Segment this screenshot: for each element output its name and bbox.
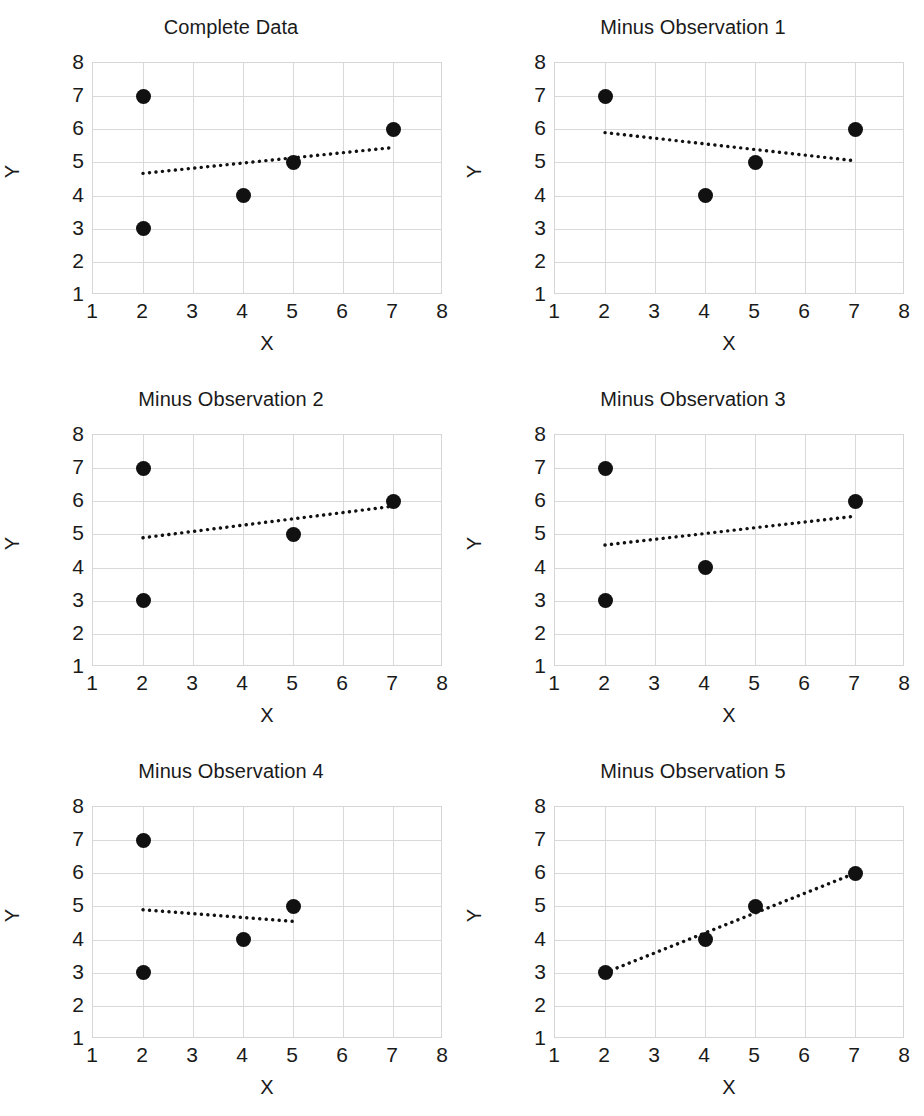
x-axis-tick-label: 8 xyxy=(884,1044,924,1065)
chart-title: Minus Observation 5 xyxy=(462,760,924,783)
chart-title: Minus Observation 2 xyxy=(0,388,462,411)
data-point xyxy=(286,899,301,914)
x-axis-tick-label: 4 xyxy=(684,300,724,321)
x-axis-tick-label: 3 xyxy=(634,672,674,693)
x-axis-tick-label: 6 xyxy=(322,1044,362,1065)
x-axis-tick-label: 2 xyxy=(122,300,162,321)
chart-panel-6: Minus Observation 58765432112345678XY xyxy=(462,744,924,1116)
x-axis-tick-label: 4 xyxy=(222,300,262,321)
y-axis-tick-label: 6 xyxy=(506,489,546,510)
x-axis-tick-label: 1 xyxy=(534,300,574,321)
y-axis-tick-label: 2 xyxy=(44,250,84,271)
figure-panel-grid: Complete Data8765432112345678XYMinus Obs… xyxy=(0,0,924,1116)
x-axis-tick-label: 7 xyxy=(834,672,874,693)
y-axis-tick-label: 8 xyxy=(506,51,546,72)
data-point xyxy=(286,527,301,542)
x-axis-tick-label: 5 xyxy=(272,672,312,693)
x-axis-tick-label: 7 xyxy=(372,300,412,321)
x-axis-tick-label: 2 xyxy=(584,1044,624,1065)
y-axis-tick-label: 8 xyxy=(44,423,84,444)
plot-area xyxy=(554,62,904,294)
y-axis-tick-label: 2 xyxy=(44,994,84,1015)
y-axis-label: Y xyxy=(1,537,24,550)
y-axis-tick-label: 7 xyxy=(44,456,84,477)
data-point xyxy=(286,155,301,170)
y-axis-tick-label: 3 xyxy=(44,217,84,238)
data-point xyxy=(236,188,251,203)
y-axis-tick-label: 7 xyxy=(44,84,84,105)
x-axis-tick-label: 5 xyxy=(272,1044,312,1065)
x-axis-tick-label: 7 xyxy=(372,672,412,693)
y-axis-tick-label: 6 xyxy=(44,861,84,882)
x-axis-tick-label: 8 xyxy=(884,672,924,693)
x-axis-tick-label: 5 xyxy=(734,672,774,693)
trendline xyxy=(555,807,905,1039)
y-axis-tick-label: 2 xyxy=(506,622,546,643)
x-axis-tick-label: 6 xyxy=(784,300,824,321)
chart-panel-1: Complete Data8765432112345678XY xyxy=(0,0,462,372)
data-point xyxy=(698,560,713,575)
x-axis-tick-label: 1 xyxy=(72,1044,112,1065)
y-axis-tick-label: 6 xyxy=(506,117,546,138)
x-axis-tick-label: 5 xyxy=(734,300,774,321)
y-axis-tick-label: 8 xyxy=(44,51,84,72)
y-axis-tick-label: 4 xyxy=(44,928,84,949)
y-axis-tick-label: 5 xyxy=(506,150,546,171)
x-axis-tick-label: 8 xyxy=(422,672,462,693)
data-point xyxy=(136,965,151,980)
x-axis-tick-label: 5 xyxy=(734,1044,774,1065)
y-axis-label: Y xyxy=(1,165,24,178)
y-axis-label: Y xyxy=(1,909,24,922)
plot-area xyxy=(92,806,442,1038)
data-point xyxy=(598,89,613,104)
y-axis-tick-label: 3 xyxy=(506,589,546,610)
y-axis-tick-label: 5 xyxy=(44,150,84,171)
y-axis-tick-label: 3 xyxy=(44,589,84,610)
x-axis-label: X xyxy=(554,1076,904,1099)
y-axis-tick-label: 4 xyxy=(506,928,546,949)
y-axis-tick-label: 2 xyxy=(506,994,546,1015)
y-axis-tick-label: 3 xyxy=(506,217,546,238)
y-axis-tick-label: 7 xyxy=(506,84,546,105)
y-axis-tick-label: 2 xyxy=(44,622,84,643)
y-axis-tick-label: 6 xyxy=(506,861,546,882)
x-axis-tick-label: 3 xyxy=(634,300,674,321)
x-axis-tick-label: 4 xyxy=(684,1044,724,1065)
data-point xyxy=(598,593,613,608)
data-point xyxy=(848,122,863,137)
y-axis-tick-label: 5 xyxy=(506,894,546,915)
x-axis-tick-label: 7 xyxy=(834,300,874,321)
data-point xyxy=(386,122,401,137)
x-axis-tick-label: 6 xyxy=(784,1044,824,1065)
y-axis-tick-label: 3 xyxy=(506,961,546,982)
x-axis-tick-label: 2 xyxy=(584,300,624,321)
x-axis-tick-label: 7 xyxy=(834,1044,874,1065)
x-axis-tick-label: 8 xyxy=(422,300,462,321)
y-axis-tick-label: 4 xyxy=(506,556,546,577)
data-point xyxy=(136,89,151,104)
y-axis-tick-label: 2 xyxy=(506,250,546,271)
y-axis-tick-label: 4 xyxy=(506,184,546,205)
chart-panel-5: Minus Observation 48765432112345678XY xyxy=(0,744,462,1116)
data-point xyxy=(598,965,613,980)
y-axis-tick-label: 6 xyxy=(44,117,84,138)
plot-area xyxy=(92,434,442,666)
x-axis-tick-label: 4 xyxy=(222,1044,262,1065)
plot-area xyxy=(554,806,904,1038)
x-axis-tick-label: 2 xyxy=(122,1044,162,1065)
x-axis-tick-label: 1 xyxy=(72,672,112,693)
data-point xyxy=(848,494,863,509)
y-axis-tick-label: 7 xyxy=(44,828,84,849)
data-point xyxy=(598,461,613,476)
x-axis-tick-label: 4 xyxy=(222,672,262,693)
x-axis-tick-label: 8 xyxy=(884,300,924,321)
y-axis-tick-label: 5 xyxy=(506,522,546,543)
y-axis-tick-label: 3 xyxy=(44,961,84,982)
data-point xyxy=(136,593,151,608)
y-axis-label: Y xyxy=(463,537,486,550)
x-axis-tick-label: 8 xyxy=(422,1044,462,1065)
x-axis-tick-label: 6 xyxy=(784,672,824,693)
data-point xyxy=(136,461,151,476)
y-axis-tick-label: 7 xyxy=(506,456,546,477)
y-axis-label: Y xyxy=(463,909,486,922)
